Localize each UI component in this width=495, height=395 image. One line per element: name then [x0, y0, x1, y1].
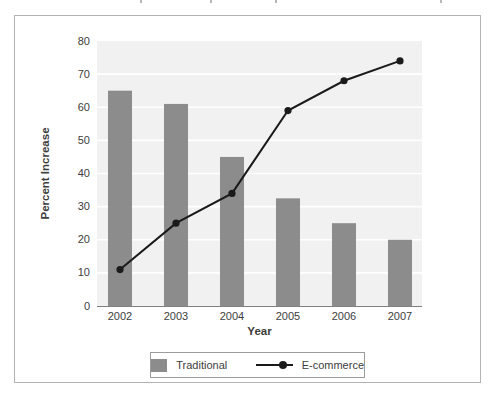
cropped-caption-fragment — [140, 0, 142, 3]
y-tick-label: 50 — [78, 134, 90, 146]
cropped-caption-fragment — [440, 0, 442, 3]
y-tick-label: 20 — [78, 233, 90, 245]
y-axis-title: Percent Increase — [39, 127, 51, 219]
ecommerce-line-swatch — [256, 361, 293, 370]
x-tick-label: 2004 — [220, 310, 244, 322]
line-swatch-marker-dot — [279, 361, 287, 369]
bar-2005 — [276, 198, 300, 306]
x-tick-label: 2003 — [164, 310, 188, 322]
x-tick-label: 2005 — [276, 310, 300, 322]
y-tick-label: 70 — [78, 68, 90, 80]
bar-2002 — [108, 91, 132, 306]
cropped-caption-fragment — [210, 0, 212, 3]
y-tick-label: 10 — [78, 266, 90, 278]
chart-legend: Traditional E-commerce — [150, 352, 365, 378]
x-tick-label: 2007 — [388, 310, 412, 322]
line-marker-2004 — [228, 190, 235, 197]
y-tick-label: 0 — [84, 300, 90, 312]
bar-2007 — [388, 240, 412, 306]
chart-figure-frame: 0102030405060708020022003200420052006200… — [14, 15, 481, 383]
y-tick-label: 30 — [78, 200, 90, 212]
traditional-bar-swatch — [151, 359, 167, 372]
combo-chart: 0102030405060708020022003200420052006200… — [15, 16, 480, 382]
y-tick-label: 80 — [78, 35, 90, 47]
line-swatch-stroke — [256, 364, 293, 366]
line-marker-2002 — [116, 266, 123, 273]
y-tick-label: 60 — [78, 101, 90, 113]
cropped-caption-fragment — [275, 0, 277, 3]
page: 0102030405060708020022003200420052006200… — [0, 0, 495, 395]
x-tick-label: 2002 — [108, 310, 132, 322]
line-marker-2007 — [396, 57, 403, 64]
line-marker-2003 — [172, 220, 179, 227]
bar-2003 — [164, 104, 188, 306]
legend-label-traditional: Traditional — [176, 359, 227, 371]
line-marker-2006 — [340, 77, 347, 84]
bar-2006 — [332, 223, 356, 306]
y-tick-label: 40 — [78, 167, 90, 179]
line-marker-2005 — [284, 107, 291, 114]
legend-label-ecommerce: E-commerce — [302, 359, 364, 371]
x-tick-label: 2006 — [332, 310, 356, 322]
x-axis-title: Year — [247, 325, 272, 337]
